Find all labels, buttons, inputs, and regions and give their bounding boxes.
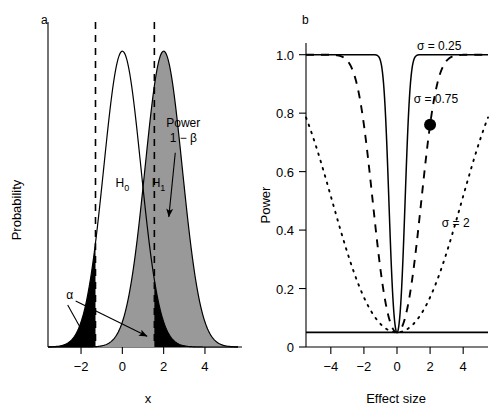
svg-text:−2: −2 xyxy=(74,359,89,374)
panel-a-distributions: a −2024 H0 H1 Power xyxy=(0,0,248,414)
svg-text:0.4: 0.4 xyxy=(276,223,294,238)
panel-a-label: a xyxy=(41,13,48,27)
alpha-label: α xyxy=(66,288,73,302)
panel-b-y-tick-labels: 00.20.40.60.81.0 xyxy=(276,48,294,355)
svg-text:1.0: 1.0 xyxy=(276,48,294,63)
figure-container: a −2024 H0 H1 Power xyxy=(0,0,496,414)
svg-text:0.8: 0.8 xyxy=(276,106,294,121)
power-label-line1: Power xyxy=(166,116,200,130)
panel-a-content: a −2024 H0 H1 Power xyxy=(9,13,242,406)
h1-shaded-region xyxy=(48,51,238,347)
sigma-025-label: σ = 0.25 xyxy=(417,39,462,53)
panel-a-y-axis-title: Probability xyxy=(9,179,24,240)
h0-label: H0 xyxy=(116,176,130,193)
panel-b-x-ticks xyxy=(331,347,463,354)
svg-text:0.6: 0.6 xyxy=(276,165,294,180)
svg-text:0: 0 xyxy=(393,359,400,374)
panel-b-x-axis-title: Effect size xyxy=(366,391,426,406)
panel-b-y-ticks xyxy=(299,55,306,347)
svg-text:0: 0 xyxy=(119,359,126,374)
power-label-line2: 1 − β xyxy=(170,131,197,145)
sigma-2-label: σ = 2 xyxy=(442,216,470,230)
panel-a-x-tick-labels: −2024 xyxy=(74,359,209,374)
highlight-point-marker xyxy=(424,119,436,131)
svg-text:4: 4 xyxy=(201,359,208,374)
svg-text:4: 4 xyxy=(460,359,467,374)
h0-label-group: H0 xyxy=(116,176,130,193)
svg-text:0: 0 xyxy=(287,340,294,355)
panel-a-x-axis-title: x xyxy=(145,391,152,406)
svg-text:0.2: 0.2 xyxy=(276,282,294,297)
svg-text:−2: −2 xyxy=(356,359,371,374)
svg-text:−4: −4 xyxy=(323,359,338,374)
power-curve-sigma-075 xyxy=(306,55,488,333)
panel-b-x-tick-labels: −4−2024 xyxy=(323,359,466,374)
panel-b-y-axis-title: Power xyxy=(258,186,273,224)
panel-b-label: b xyxy=(302,13,309,27)
svg-text:2: 2 xyxy=(426,359,433,374)
panel-a-svg: a −2024 H0 H1 Power xyxy=(0,0,248,414)
panel-b-power-curves: b 00.20.40.60.81.0 −4−2024 σ = 0.25 σ = … xyxy=(248,0,496,414)
panel-b-svg: b 00.20.40.60.81.0 −4−2024 σ = 0.25 σ = … xyxy=(248,0,496,414)
sigma-075-label: σ = 0.75 xyxy=(414,92,459,106)
panel-a-x-ticks xyxy=(81,347,205,354)
panel-b-content: b 00.20.40.60.81.0 −4−2024 σ = 0.25 σ = … xyxy=(258,13,488,406)
svg-text:2: 2 xyxy=(160,359,167,374)
power-curve-sigma-025 xyxy=(306,55,488,333)
